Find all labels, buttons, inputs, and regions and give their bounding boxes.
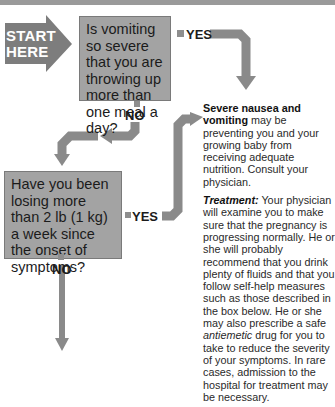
yes1-connector xyxy=(177,30,184,37)
yes2-connector xyxy=(125,212,131,218)
question2-box: Have you been losing more than 2 lb (1 k… xyxy=(4,171,122,259)
start-line1: START xyxy=(6,28,56,44)
answer-paragraph-1: Severe nausea and vomiting may be preven… xyxy=(203,102,335,188)
no2-connector xyxy=(58,254,64,260)
treatment-text-a: Your physician will examine you to make … xyxy=(203,194,335,329)
no1-connector xyxy=(134,101,140,107)
question1-box: Is vomiting so severe that you are throw… xyxy=(79,16,171,101)
start-here-label: START HERE xyxy=(6,28,56,60)
yes1-label: YES xyxy=(186,27,212,42)
start-line2: HERE xyxy=(6,44,56,60)
no1-label: NO xyxy=(125,108,145,123)
answer-paragraph-2: Treatment: Your physician will examine y… xyxy=(203,194,335,403)
answer-text-block: Severe nausea and vomiting may be preven… xyxy=(203,102,335,407)
no2-label: NO xyxy=(52,262,72,277)
treatment-label: Treatment: xyxy=(203,194,259,206)
yes2-label: YES xyxy=(132,209,158,224)
antiemetic-term: antiemetic xyxy=(203,329,252,341)
